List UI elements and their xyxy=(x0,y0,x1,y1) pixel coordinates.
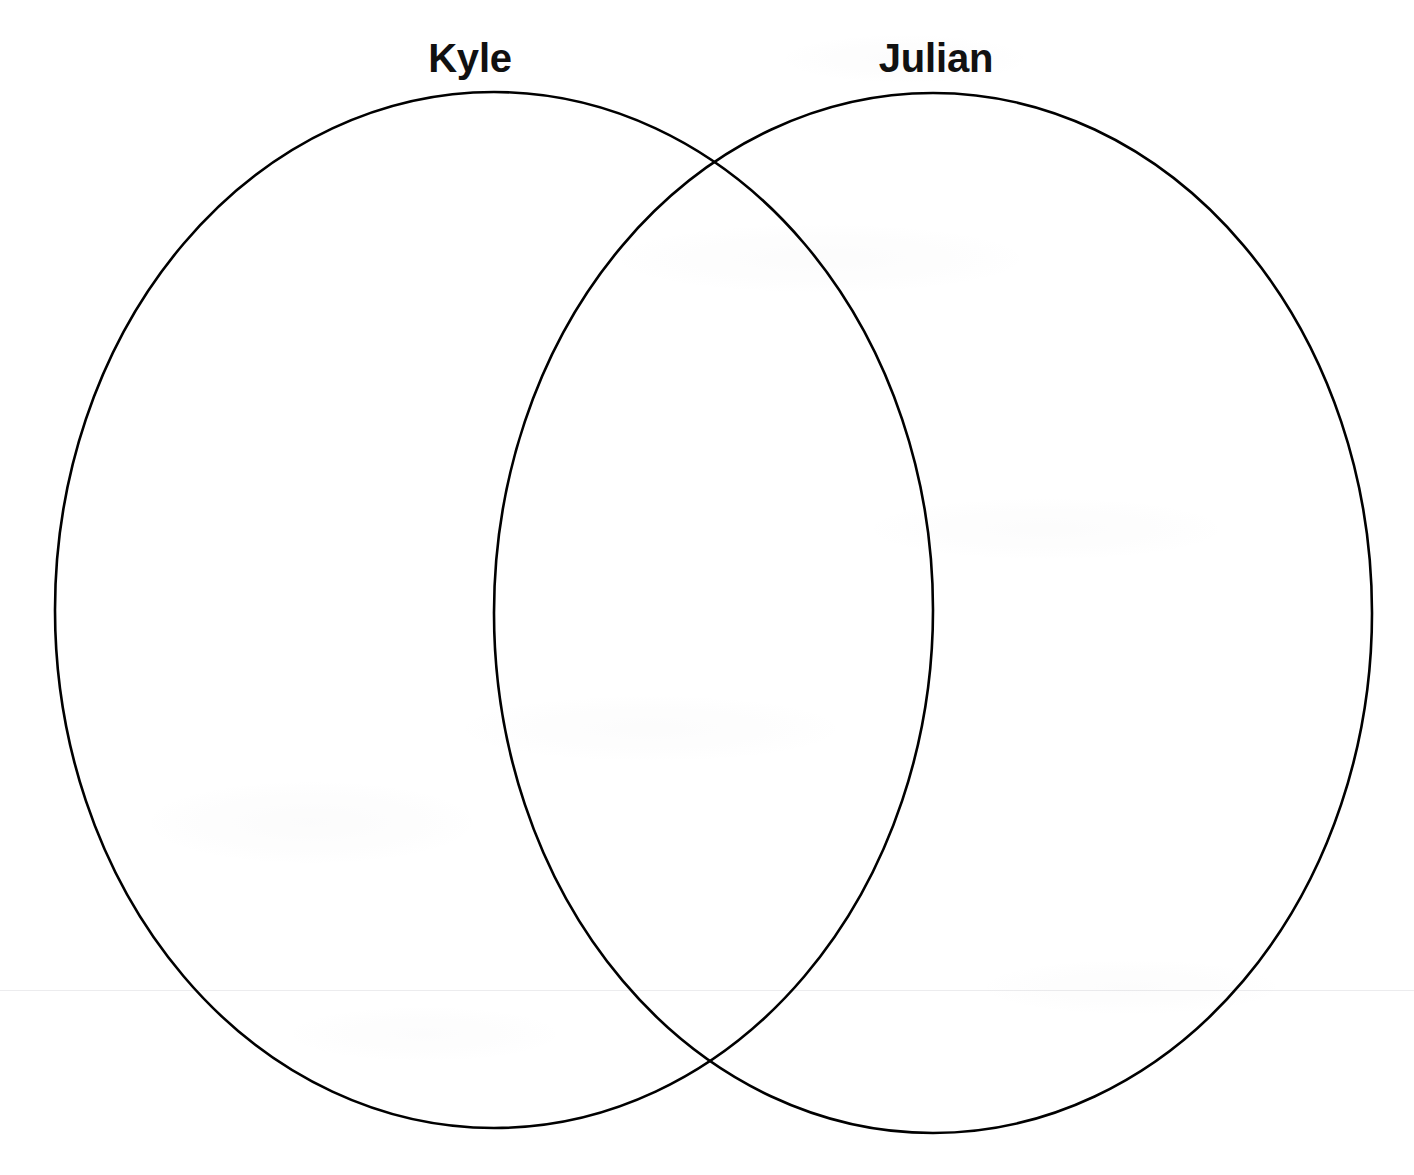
venn-label-right: Julian xyxy=(879,38,993,78)
venn-label-left: Kyle xyxy=(428,38,512,78)
worksheet-page: Kyle Julian xyxy=(0,0,1414,1175)
venn-diagram xyxy=(0,0,1414,1175)
